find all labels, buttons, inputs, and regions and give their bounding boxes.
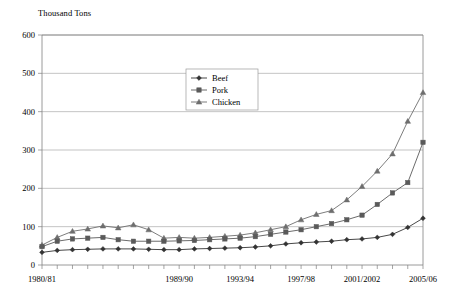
series-line-chicken	[42, 93, 423, 246]
data-point-diamond	[299, 240, 304, 245]
x-tick-label: 1989/90	[165, 274, 193, 284]
data-point-square	[390, 191, 394, 195]
data-point-triangle	[100, 223, 106, 228]
x-tick-label: 2005/06	[409, 274, 437, 284]
series-chicken	[39, 90, 426, 247]
data-point-diamond	[131, 247, 136, 252]
data-point-square	[314, 224, 318, 228]
data-point-diamond	[222, 246, 227, 251]
data-point-square	[146, 239, 150, 243]
data-point-square	[116, 238, 120, 242]
data-point-triangle	[131, 222, 137, 227]
data-point-square	[192, 238, 196, 242]
data-point-diamond	[405, 225, 410, 230]
data-point-square	[207, 238, 211, 242]
data-point-square	[70, 237, 74, 241]
data-point-square	[268, 232, 272, 236]
series-pork	[40, 140, 425, 249]
data-point-diamond	[314, 240, 319, 245]
data-point-square	[238, 236, 242, 240]
x-tick-label: 1993/94	[226, 274, 255, 284]
data-point-triangle	[420, 90, 426, 95]
data-point-square	[40, 244, 44, 248]
data-point-square	[360, 213, 364, 217]
data-point-diamond	[283, 242, 288, 247]
data-point-square	[101, 235, 105, 239]
y-tick-label: 100	[22, 222, 35, 232]
data-point-diamond	[268, 243, 273, 248]
data-point-diamond	[375, 235, 380, 240]
y-tick-label: 200	[22, 183, 35, 193]
data-point-square	[177, 239, 181, 243]
legend-label-chicken: Chicken	[212, 97, 241, 107]
data-point-diamond	[360, 237, 365, 242]
y-tick-label: 0	[31, 260, 35, 270]
x-tick-label: 1980/81	[28, 274, 56, 284]
y-tick-label: 400	[22, 107, 35, 117]
data-point-square	[223, 237, 227, 241]
data-point-diamond	[207, 246, 212, 251]
data-point-diamond	[85, 247, 90, 252]
data-point-square	[329, 221, 333, 225]
data-point-diamond	[40, 250, 45, 255]
data-point-diamond	[116, 247, 121, 252]
legend-label-beef: Beef	[212, 73, 228, 83]
y-tick-label: 500	[22, 68, 35, 78]
data-point-diamond	[55, 248, 60, 253]
data-point-triangle	[329, 208, 335, 213]
data-point-diamond	[253, 245, 258, 250]
data-point-diamond	[329, 239, 334, 244]
data-point-diamond	[344, 237, 349, 242]
data-point-diamond	[238, 245, 243, 250]
data-point-square	[284, 230, 288, 234]
x-tick-label: 2001/2002	[344, 274, 380, 284]
y-tick-label: 300	[22, 145, 35, 155]
data-point-diamond	[70, 247, 75, 252]
data-point-diamond	[421, 216, 426, 221]
line-chart: Thousand Tons 01002003004005006001980/81…	[0, 0, 457, 302]
data-point-diamond	[192, 247, 197, 252]
data-point-triangle	[405, 118, 411, 123]
data-point-diamond	[101, 247, 106, 252]
data-point-square	[406, 180, 410, 184]
x-tick-label: 1997/98	[287, 274, 315, 284]
legend-label-pork: Pork	[212, 85, 229, 95]
data-point-diamond	[146, 247, 151, 252]
data-point-square	[345, 218, 349, 222]
data-point-square	[253, 234, 257, 238]
data-point-diamond	[177, 247, 182, 252]
chart-legend: BeefPorkChicken	[186, 69, 258, 110]
plot-area: 01002003004005006001980/811989/901993/94…	[0, 0, 457, 302]
series-line-pork	[42, 142, 423, 246]
data-point-square	[55, 239, 59, 243]
data-point-square	[131, 239, 135, 243]
data-point-square	[421, 140, 425, 144]
data-point-diamond	[162, 247, 167, 252]
y-tick-label: 600	[22, 30, 35, 40]
data-point-square	[197, 88, 201, 92]
data-point-square	[299, 228, 303, 232]
data-point-square	[86, 236, 90, 240]
data-point-square	[375, 202, 379, 206]
data-point-square	[162, 239, 166, 243]
data-point-triangle	[390, 151, 396, 156]
data-point-diamond	[390, 232, 395, 237]
